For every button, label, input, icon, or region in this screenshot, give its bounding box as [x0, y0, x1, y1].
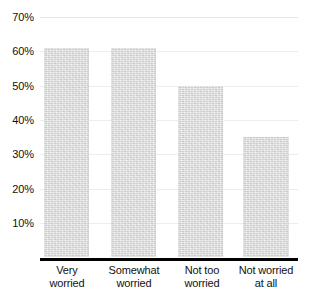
y-tick-label: 60%	[0, 46, 34, 57]
x-tick-line-1: Not worried	[233, 264, 299, 277]
footnote	[60, 295, 280, 300]
x-tick-line-1: Somewhat	[99, 264, 169, 277]
y-tick-label: 50%	[0, 81, 34, 92]
gridline-70	[40, 17, 298, 18]
x-tick-line-2: worried	[173, 277, 231, 290]
bar-very-worried	[44, 48, 89, 257]
x-tick-label-somewhat-worried: Somewhat worried	[99, 264, 169, 290]
bar-not-too-worried	[178, 86, 223, 257]
x-tick-line-2: worried	[99, 277, 169, 290]
bar-not-worried-at-all	[243, 137, 289, 257]
plot-area	[40, 0, 298, 259]
x-tick-line-2: at all	[233, 277, 299, 290]
bar-chart: 70% 60% 50% 40% 30% 20% 10% Very worried…	[0, 0, 310, 300]
y-tick-label: 30%	[0, 149, 34, 160]
bar-somewhat-worried	[111, 48, 156, 257]
x-tick-line-1: Very	[40, 264, 94, 277]
x-tick-label-not-too-worried: Not too worried	[173, 264, 231, 290]
x-tick-line-2: worried	[40, 277, 94, 290]
y-tick-label: 40%	[0, 115, 34, 126]
x-axis-labels: Very worried Somewhat worried Not too wo…	[40, 264, 298, 296]
x-tick-line-1: Not too	[173, 264, 231, 277]
y-tick-label: 20%	[0, 184, 34, 195]
x-axis-line	[40, 258, 298, 261]
x-tick-label-not-worried-at-all: Not worried at all	[233, 264, 299, 290]
x-tick-label-very-worried: Very worried	[40, 264, 94, 290]
y-tick-label: 70%	[0, 12, 34, 23]
y-tick-label: 10%	[0, 218, 34, 229]
